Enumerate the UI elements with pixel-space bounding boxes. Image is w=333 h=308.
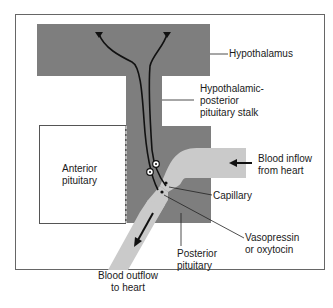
label-capillary: Capillary xyxy=(213,190,252,201)
label-hormone-line2: or oxytocin xyxy=(245,244,293,255)
label-hypothalamus: Hypothalamus xyxy=(229,48,293,59)
label-hormone-line1: Vasopressin xyxy=(245,232,299,243)
label-posterior-line1: Posterior xyxy=(177,248,217,259)
label-stalk-line1: Hypothalamic- xyxy=(200,83,264,94)
label-anterior-line2: pituitary xyxy=(62,175,97,186)
label-inflow-line1: Blood inflow xyxy=(258,153,312,164)
label-outflow-line2: to heart xyxy=(88,282,168,293)
label-stalk-line3: pituitary stalk xyxy=(200,107,258,118)
hormone-molecule xyxy=(164,181,167,184)
label-inflow-line2: from heart xyxy=(258,165,304,176)
label-anterior-line1: Anterior xyxy=(62,163,97,174)
hormone-vesicle xyxy=(155,163,157,165)
label-posterior-line2: pituitary xyxy=(177,260,212,271)
hormone-vesicle xyxy=(149,171,151,173)
label-outflow-line1: Blood outflow xyxy=(88,270,168,281)
label-stalk-line2: posterior xyxy=(200,95,239,106)
hormone-molecule xyxy=(160,190,163,193)
